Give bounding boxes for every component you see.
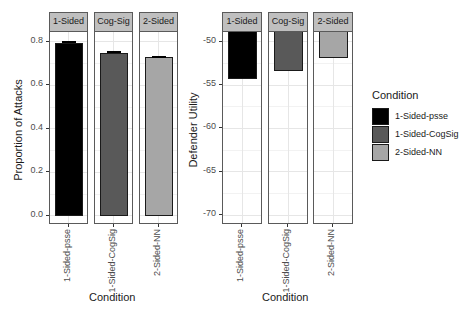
left-y-tick: 0.6 [13, 78, 43, 88]
facet-panel-1-sided [49, 31, 88, 224]
legend-title: Condition [372, 89, 418, 101]
facet-panel-2-sided [313, 31, 353, 224]
bar-1-sided-cogsig [274, 31, 303, 71]
right-y-tick: -50 [186, 35, 216, 45]
left-y-tick: 0.8 [13, 35, 43, 45]
legend-label: 1-Sided-CogSig [395, 129, 459, 139]
facet-panel-1-sided [222, 31, 262, 224]
right-y-tick: -65 [186, 165, 216, 175]
right-x-axis-title: Condition [262, 291, 308, 303]
bar-1-sided-psse [55, 43, 83, 216]
x-tick-mark [158, 224, 159, 227]
facet-strip-cog-sig: Cog-Sig [268, 12, 308, 32]
legend-key-2-sided-nn [372, 144, 389, 161]
right-y-tick: -55 [186, 78, 216, 88]
left-x-tick-label: 2-Sided-NN [152, 229, 162, 309]
left-y-tick: 0.2 [13, 165, 43, 175]
right-y-tick: -70 [186, 208, 216, 218]
facet-strip-2-sided: 2-Sided [313, 12, 353, 32]
legend-key-1-sided-psse [372, 108, 389, 125]
facet-strip-cog-sig: Cog-Sig [94, 12, 133, 32]
right-x-tick-label: 1-Sided-psse [235, 229, 245, 309]
facet-panel-2-sided [139, 31, 178, 224]
facet-panel-cog-sig [94, 31, 133, 224]
facet-strip-1-sided: 1-Sided [222, 12, 262, 32]
facet-panel-cog-sig [268, 31, 308, 224]
legend-label: 2-Sided-NN [395, 147, 442, 157]
right-x-tick-label: 2-Sided-NN [326, 229, 336, 309]
error-bar [62, 41, 76, 43]
bar-2-sided-nn [319, 31, 348, 58]
legend-key-1-sided-cogsig [372, 126, 389, 143]
bar-2-sided-nn [145, 57, 173, 216]
x-tick-mark [287, 224, 288, 227]
error-bar [107, 51, 121, 53]
x-tick-mark [68, 224, 69, 227]
bar-1-sided-cogsig [100, 53, 128, 216]
x-tick-mark [113, 224, 114, 227]
facet-strip-2-sided: 2-Sided [139, 12, 178, 32]
left-x-tick-label: 1-Sided-psse [62, 229, 72, 309]
x-tick-mark [241, 224, 242, 227]
left-y-tick: 0.4 [13, 122, 43, 132]
left-x-axis-title: Condition [89, 291, 135, 303]
legend-label: 1-Sided-psse [395, 111, 448, 121]
x-tick-mark [332, 224, 333, 227]
error-bar [152, 56, 166, 58]
bar-1-sided-psse [228, 31, 257, 79]
left-y-tick: 0.0 [13, 209, 43, 219]
right-y-tick: -60 [186, 121, 216, 131]
facet-strip-1-sided: 1-Sided [49, 12, 88, 32]
